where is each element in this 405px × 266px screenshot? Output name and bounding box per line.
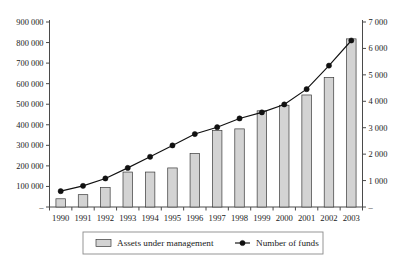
bar-1994[interactable] xyxy=(145,172,155,207)
x-axis-label-2000: 2000 xyxy=(276,213,293,223)
left-axis-tick-label: 900 000 xyxy=(16,18,43,27)
chart-container: –100 000200 000300 000400 000500 000600 … xyxy=(0,0,405,266)
right-axis-tick-label: 1 000 xyxy=(369,177,388,186)
data-point-1994[interactable] xyxy=(148,154,153,159)
right-axis-tick-label: 7 000 xyxy=(369,18,388,27)
bar-1998[interactable] xyxy=(235,129,245,207)
x-axis-label-1996: 1996 xyxy=(186,213,204,223)
right-axis-tick-label: 5 000 xyxy=(369,71,388,80)
bar-1991[interactable] xyxy=(78,195,88,207)
left-axis-tick-label: 100 000 xyxy=(16,182,43,191)
left-axis-tick-label: – xyxy=(38,203,44,212)
data-point-1996[interactable] xyxy=(192,131,197,136)
bar-1992[interactable] xyxy=(101,187,111,207)
x-axis-label-2003: 2003 xyxy=(343,213,360,223)
x-axis-label-1994: 1994 xyxy=(142,213,160,223)
x-axis-label-1991: 1991 xyxy=(74,213,91,223)
bar-1995[interactable] xyxy=(168,168,178,207)
x-axis-label-1997: 1997 xyxy=(209,213,227,223)
bar-1993[interactable] xyxy=(123,172,133,207)
left-axis-tick-label: 500 000 xyxy=(16,100,43,109)
legend-swatch-assets xyxy=(96,240,111,247)
bar-2003[interactable] xyxy=(347,39,357,207)
left-axis-tick-label: 300 000 xyxy=(16,141,43,150)
left-axis-tick-label: 700 000 xyxy=(16,59,43,68)
right-axis-tick-label: – xyxy=(368,203,374,212)
data-point-2003[interactable] xyxy=(349,38,354,43)
legend-marker-funds xyxy=(240,240,245,245)
data-point-1999[interactable] xyxy=(259,110,264,115)
legend-label-funds: Number of funds xyxy=(256,238,319,248)
legend-label-assets: Assets under management xyxy=(117,238,214,248)
right-axis-tick-label: 4 000 xyxy=(369,97,388,106)
data-point-1992[interactable] xyxy=(103,176,108,181)
bar-2002[interactable] xyxy=(324,78,334,208)
left-axis-tick-label: 600 000 xyxy=(16,80,43,89)
right-axis-tick-label: 6 000 xyxy=(369,44,388,53)
data-point-1993[interactable] xyxy=(125,165,130,170)
bar-2000[interactable] xyxy=(280,105,290,207)
bar-1999[interactable] xyxy=(257,111,267,207)
data-point-1990[interactable] xyxy=(58,189,63,194)
data-point-2001[interactable] xyxy=(304,87,309,92)
data-point-1995[interactable] xyxy=(170,143,175,148)
data-point-2002[interactable] xyxy=(326,63,331,68)
x-axis-label-2002: 2002 xyxy=(320,213,337,223)
left-axis-tick-label: 800 000 xyxy=(16,39,43,48)
bar-1990[interactable] xyxy=(56,199,66,207)
left-axis-tick-label: 400 000 xyxy=(16,121,43,130)
data-point-2000[interactable] xyxy=(282,102,287,107)
data-point-1991[interactable] xyxy=(80,183,85,188)
x-axis-label-1995: 1995 xyxy=(164,213,181,223)
x-axis-label-1998: 1998 xyxy=(231,213,248,223)
x-axis-label-1992: 1992 xyxy=(97,213,114,223)
data-point-1998[interactable] xyxy=(237,116,242,121)
bar-1997[interactable] xyxy=(212,131,222,207)
x-axis-label-1999: 1999 xyxy=(253,213,270,223)
right-axis-tick-label: 2 000 xyxy=(369,150,388,159)
bar-1996[interactable] xyxy=(190,154,200,207)
left-axis-tick-label: 200 000 xyxy=(16,162,43,171)
x-axis-label-1990: 1990 xyxy=(52,213,69,223)
x-axis-label-2001: 2001 xyxy=(298,213,315,223)
right-axis-tick-label: 3 000 xyxy=(369,124,388,133)
chart-svg: –100 000200 000300 000400 000500 000600 … xyxy=(0,0,405,266)
x-axis-label-1993: 1993 xyxy=(119,213,136,223)
bar-2001[interactable] xyxy=(302,95,312,207)
data-point-1997[interactable] xyxy=(215,125,220,130)
